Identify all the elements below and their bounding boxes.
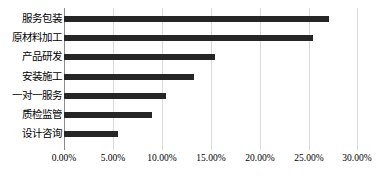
bar-3 <box>64 74 194 80</box>
bar-row <box>64 93 358 99</box>
bar-row <box>64 54 358 60</box>
category-label: 一对一服务 <box>0 90 62 101</box>
xtick-label: 15.00% <box>196 152 225 164</box>
bar-chart: 服务包装 原材料加工 产品研发 安装施工 一对一服务 质检监管 设计咨询 0.0… <box>0 0 381 185</box>
category-axis: 服务包装 原材料加工 产品研发 安装施工 一对一服务 质检监管 设计咨询 <box>0 8 62 150</box>
category-label: 原材料加工 <box>0 32 62 43</box>
xtick-label: 25.00% <box>294 152 323 164</box>
bar-2 <box>64 54 215 60</box>
xtick-label: 0.00% <box>52 152 77 164</box>
bar-row <box>64 112 358 118</box>
bar-row <box>64 16 358 22</box>
bar-row <box>64 74 358 80</box>
xtick-label: 5.00% <box>101 152 126 164</box>
category-label: 设计咨询 <box>0 128 62 139</box>
bar-row <box>64 35 358 41</box>
category-label: 服务包装 <box>0 13 62 24</box>
category-label: 质检监管 <box>0 109 62 120</box>
bar-4 <box>64 93 166 99</box>
bar-1 <box>64 35 313 41</box>
category-label: 安装施工 <box>0 71 62 82</box>
bar-6 <box>64 131 118 137</box>
xtick-label: 10.00% <box>147 152 176 164</box>
category-label: 产品研发 <box>0 51 62 62</box>
bar-5 <box>64 112 152 118</box>
xtick-label: 30.00% <box>342 152 371 164</box>
plot-area <box>64 8 358 150</box>
bar-0 <box>64 16 329 22</box>
value-axis: 0.00% 5.00% 10.00% 15.00% 20.00% 25.00% … <box>64 152 358 168</box>
bar-row <box>64 131 358 137</box>
xtick-label: 20.00% <box>245 152 274 164</box>
